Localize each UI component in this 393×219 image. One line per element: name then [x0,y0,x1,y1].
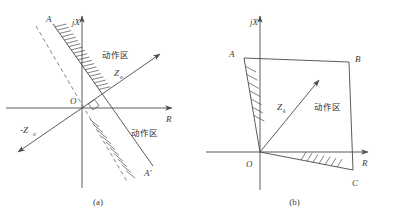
panel-b: A B C O jX R Z k 动作区 (b) [196,0,393,219]
label-imaginary-axis: jX [249,17,259,27]
label-point-A: A [45,14,52,24]
label-vertex-A: A [228,49,235,59]
label-zone: 动作区 [314,102,341,112]
svg-text:-Z: -Z [20,125,29,135]
hatching-lower-a [90,119,135,178]
label-real-axis: R [165,114,172,124]
panel-b-diagram: A B C O jX R Z k 动作区 [196,0,393,200]
caption-panel-a: (a) [0,197,196,207]
axes-group-b [206,16,368,190]
figure-root: A A' O jX R Z o -Z o 动作区 动作区 (a) [0,0,393,219]
label-vertex-C: C [352,178,359,188]
panel-a-diagram: A A' O jX R Z o -Z o 动作区 动作区 [0,0,196,200]
label-vertex-B: B [355,54,361,64]
label-vector-zk: Z k [277,102,286,114]
label-origin: O [70,96,77,106]
svg-text:o: o [120,74,123,80]
characteristic-line-AA [53,24,153,166]
label-real-axis: R [361,158,368,168]
label-zone-lower: 动作区 [131,128,158,138]
svg-text:k: k [283,108,286,114]
svg-text:o: o [33,131,36,137]
vector-zk [260,80,319,152]
hatching-edge-oa [245,66,264,121]
label-vector-z-forward: Z o [114,68,123,80]
hatching-edge-oc [301,152,342,167]
label-vector-z-reverse: -Z o [20,125,36,137]
label-zone-upper: 动作区 [102,50,129,60]
panel-a: A A' O jX R Z o -Z o 动作区 动作区 (a) [0,0,196,219]
axes-group-a [6,16,172,188]
caption-panel-b: (b) [196,197,393,207]
label-point-A-prime: A' [143,168,152,178]
label-imaginary-axis: jX [71,17,81,27]
label-origin: O [246,159,253,169]
